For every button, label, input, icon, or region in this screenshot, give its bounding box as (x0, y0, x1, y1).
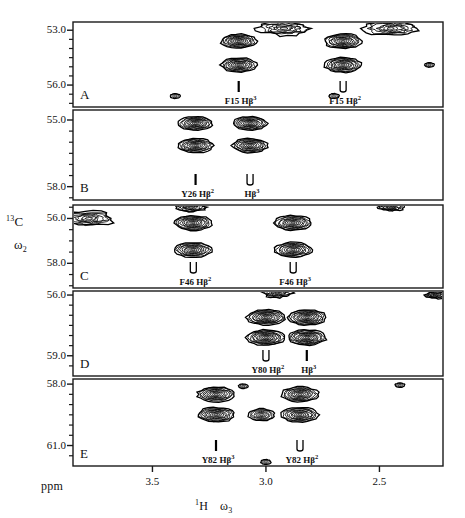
peak-label-y26-hb3: Hβ3 (224, 187, 280, 199)
peak-label-superscript: 3 (231, 453, 234, 460)
panel-letter-b: B (80, 180, 89, 196)
y-tick-label: 58.0 (26, 256, 66, 268)
y-tick-label: 56.0 (26, 288, 66, 300)
peak-label-y82-hb3: Y82 Hβ3 (190, 453, 246, 465)
peak-label-proton: Hβ (296, 277, 308, 287)
peak-label-proton: Hβ (199, 189, 211, 199)
nmr-figure (0, 0, 465, 518)
yaxis-omega: ω (14, 237, 23, 252)
xaxis-main: H (199, 499, 208, 513)
y-tick-label: 55.0 (26, 113, 66, 125)
peak-label-f15-hb3: F15 Hβ3 (213, 94, 269, 106)
peak-label-superscript: 3 (308, 275, 311, 282)
xaxis-omega-sub: 3 (228, 506, 232, 515)
peak-label-proton: Hβ (245, 189, 257, 199)
xaxis-omega: ω (220, 499, 228, 513)
peak-label-superscript: 2 (315, 453, 318, 460)
peak-label-y26-hb2: Y26 Hβ2 (170, 187, 226, 199)
peak-label-proton: Hβ (242, 96, 254, 106)
y-tick-label: 61.0 (26, 439, 66, 451)
peak-label-residue: F46 (279, 277, 296, 287)
peak-label-proton: Hβ (269, 365, 281, 375)
peak-label-proton: Hβ (301, 365, 313, 375)
peak-label-superscript: 2 (208, 275, 211, 282)
panel-contours-d (245, 289, 448, 346)
y-tick-label: 59.0 (26, 349, 66, 361)
panel-letter-a: A (80, 87, 89, 103)
peak-label-superscript: 3 (313, 363, 316, 370)
peak-label-superscript: 3 (253, 94, 256, 101)
x-tick-label: 3.0 (252, 475, 280, 487)
peak-label-superscript: 3 (256, 187, 259, 194)
peak-label-residue: Y82 (286, 455, 304, 465)
y-tick-label: 56.0 (26, 211, 66, 223)
y-tick-label: 56.0 (26, 78, 66, 90)
y-tick-label: 58.0 (26, 180, 66, 192)
peak-label-f46-hb3: F46 Hβ3 (267, 275, 323, 287)
peak-label-f46-hb2: F46 Hβ2 (167, 275, 223, 287)
peak-label-proton: Hβ (303, 455, 315, 465)
peak-label-proton: Hβ (219, 455, 231, 465)
peak-label-y82-hb2: Y82 Hβ2 (274, 453, 330, 465)
panel-letter-d: D (80, 356, 89, 372)
y-tick-label: 58.0 (26, 377, 66, 389)
y-tick-label: 53.0 (26, 23, 66, 35)
panel-contours-a (170, 21, 434, 99)
xaxis-nucleus-label: 1H ω3 (195, 498, 232, 515)
yaxis-omega-label: ω2 (14, 237, 27, 254)
panel-contours-b (178, 116, 268, 153)
peak-label-proton: Hβ (196, 277, 208, 287)
peak-label-residue: F15 (329, 96, 346, 106)
panel-letter-e: E (80, 446, 88, 462)
peak-label-y80-hb3: Hβ3 (281, 363, 337, 375)
peak-label-residue: F46 (179, 277, 196, 287)
peak-label-superscript: 2 (211, 187, 214, 194)
peak-label-residue: Y80 (252, 365, 270, 375)
yaxis-omega-sub: 2 (23, 245, 27, 254)
peak-label-superscript: 2 (358, 94, 361, 101)
peak-label-residue: F15 (225, 96, 242, 106)
peak-label-f15-hb2: F15 Hβ2 (317, 94, 373, 106)
peak-label-proton: Hβ (346, 96, 358, 106)
yaxis-nucleus-label: 13C (6, 214, 23, 230)
panel-contours-c (65, 202, 405, 257)
x-tick-label: 3.5 (138, 475, 166, 487)
yaxis-main: C (14, 214, 23, 229)
x-tick-label: 2.5 (365, 475, 393, 487)
panel-letter-c: C (80, 268, 89, 284)
ppm-label: ppm (41, 479, 63, 494)
peak-label-residue: Y26 (181, 189, 199, 199)
spectrum-canvas (0, 0, 465, 518)
peak-label-residue: Y82 (202, 455, 220, 465)
